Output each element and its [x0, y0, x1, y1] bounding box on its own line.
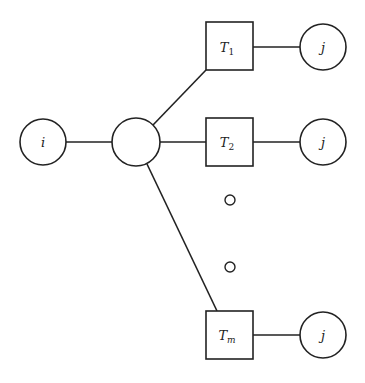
node-j1: j — [300, 24, 346, 70]
ellipsis-dot-icon — [225, 262, 235, 272]
node-t2: T2 — [206, 118, 253, 166]
diagram-canvas: i T1 T2 Tm j j j — [0, 0, 365, 383]
node-tm: Tm — [206, 311, 253, 359]
edges — [66, 47, 300, 335]
node-jm: j — [300, 312, 346, 358]
node-t1: T1 — [206, 22, 253, 70]
edge-hub-tm — [147, 164, 217, 311]
node-source: i — [20, 119, 66, 165]
ellipsis-dots — [225, 195, 235, 272]
node-t2-sub: 2 — [228, 142, 234, 152]
node-source-label: i — [41, 135, 45, 150]
node-hub — [112, 118, 160, 166]
node-tm-sub: m — [227, 335, 236, 345]
ellipsis-dot-icon — [225, 195, 235, 205]
edge-hub-t1 — [153, 70, 206, 125]
node-t1-sub: 1 — [228, 47, 234, 57]
node-j2: j — [300, 119, 346, 165]
